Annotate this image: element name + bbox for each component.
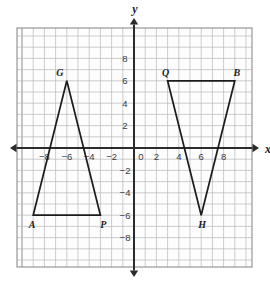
y-tick-8: 8 [122, 53, 127, 64]
y-tick--6: −6 [120, 210, 131, 221]
vertex-label-B: B [232, 67, 240, 78]
x-tick-8: 8 [221, 151, 226, 162]
origin-label: 0 [138, 151, 143, 162]
graph-svg: −8−6−4−22468−8−6−4−224680 GAPQBH xy [0, 0, 270, 288]
x-tick--2: −2 [106, 151, 117, 162]
y-axis-label: y [130, 2, 138, 16]
y-tick--2: −2 [120, 165, 131, 176]
y-tick-2: 2 [122, 120, 127, 131]
y-tick--4: −4 [120, 187, 131, 198]
x-axis-label: x [264, 142, 270, 156]
vertex-label-H: H [197, 219, 207, 230]
y-tick-4: 4 [122, 98, 127, 109]
coordinate-plane-figure: −8−6−4−22468−8−6−4−224680 GAPQBH xy [0, 0, 270, 288]
y-tick--8: −8 [120, 232, 131, 243]
vertex-label-Q: Q [162, 67, 169, 78]
x-tick-6: 6 [199, 151, 204, 162]
vertex-label-G: G [56, 67, 64, 78]
vertex-label-A: A [28, 219, 36, 230]
vertex-label-P: P [100, 219, 107, 230]
x-tick-4: 4 [176, 151, 181, 162]
x-tick--6: −6 [61, 151, 72, 162]
x-tick-2: 2 [154, 151, 159, 162]
y-tick-6: 6 [122, 75, 127, 86]
